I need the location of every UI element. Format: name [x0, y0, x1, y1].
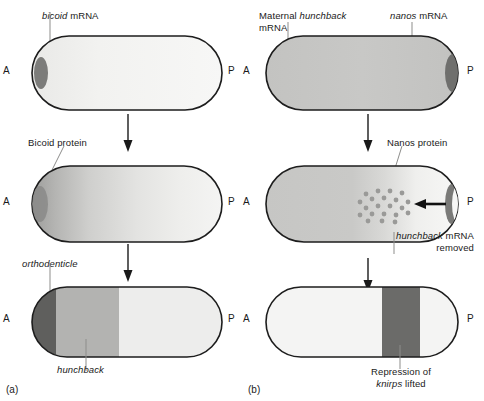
axis-label-posterior-b2: P — [467, 196, 474, 207]
axis-label-posterior-b3: P — [467, 313, 474, 324]
arrow-stage-b1-to-b2 — [356, 114, 380, 154]
band-posterior — [119, 287, 222, 357]
axis-label-posterior-a1: P — [228, 65, 235, 76]
arrow-stage-a1-to-a2 — [116, 114, 140, 154]
axis-label-anterior-a1: A — [3, 65, 10, 76]
embryo-bicoid-protein — [14, 158, 234, 250]
band-hunchback — [56, 287, 119, 357]
label-hunchback: hunchback — [57, 364, 104, 376]
axis-label-anterior-b1: A — [243, 65, 250, 76]
embryo-target-genes — [14, 283, 234, 361]
label-repression-knirps-lifted: Repression of knirps lifted — [346, 366, 456, 389]
band-knirps — [382, 287, 420, 357]
axis-label-anterior-b3: A — [243, 313, 250, 324]
label-nanos-protein: Nanos protein — [387, 137, 447, 149]
panel-caption-b: (b) — [248, 384, 260, 395]
axis-label-anterior-b2: A — [243, 196, 250, 207]
embryo-maternal-hunchback — [254, 28, 474, 118]
embryo-bicoid-mrna — [14, 28, 234, 118]
embryo-outline — [266, 36, 458, 110]
embryo-outline — [32, 36, 222, 110]
axis-label-posterior-a3: P — [228, 313, 235, 324]
bicoid-protein-deposit — [32, 186, 48, 222]
panel-caption-a: (a) — [6, 384, 18, 395]
axis-label-posterior-b1: P — [467, 65, 474, 76]
axis-label-anterior-a2: A — [3, 196, 10, 207]
label-nanos-mrna: nanos mRNA — [390, 10, 448, 22]
axis-label-posterior-a2: P — [228, 196, 235, 207]
embryo-outline — [32, 166, 222, 242]
embryo-knirps-derepression — [254, 283, 474, 361]
label-hunchback-mrna-removed: hunchback mRNA removed — [346, 230, 474, 253]
axis-label-anterior-a3: A — [3, 313, 10, 324]
figure-root: bicoid mRNA A P — [0, 0, 484, 401]
arrow-stage-a2-to-a3 — [116, 244, 140, 284]
bicoid-mrna-deposit — [34, 57, 48, 89]
label-bicoid-protein: Bicoid protein — [28, 137, 87, 149]
band-orthodenticle — [32, 287, 56, 357]
